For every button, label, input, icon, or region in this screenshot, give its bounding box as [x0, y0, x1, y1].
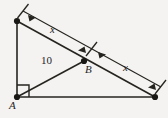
- median-segment-ab: [17, 61, 84, 97]
- label-segment-lower-x: x: [123, 62, 128, 73]
- label-point-b: B: [85, 64, 92, 75]
- dimension-tick-end: [155, 80, 166, 94]
- vertex-dot-base-right: [152, 94, 158, 100]
- dimension-arrow-lower-left: [98, 52, 106, 59]
- dimension-tick-start: [18, 4, 29, 18]
- label-point-a: A: [9, 100, 16, 111]
- vertex-dot-apex: [14, 18, 20, 24]
- figure-canvas: [0, 0, 168, 118]
- label-median-length: 10: [41, 55, 52, 66]
- dimension-arrow-lower-right: [148, 84, 156, 91]
- label-segment-upper-x: x: [50, 24, 55, 35]
- dimension-tick-middle: [86, 42, 97, 56]
- geometry-figure: x x 10 B A: [0, 0, 168, 118]
- dimension-arrow-upper-right: [78, 47, 86, 54]
